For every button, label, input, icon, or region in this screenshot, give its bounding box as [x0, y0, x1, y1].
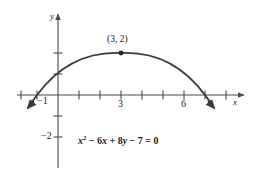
y-tick-label-neg2: −2 [41, 131, 52, 141]
vertex-point [119, 51, 124, 56]
x-axis [17, 91, 244, 100]
equation-tail: − 7 = 0 [127, 135, 158, 146]
x-axis-label: x [233, 98, 237, 107]
x-tick-label-3: 3 [118, 99, 123, 109]
equation-plus: + 8 [107, 135, 123, 146]
x-tick-label-6: 6 [181, 99, 186, 109]
y-axis-label: y [50, 12, 54, 21]
vertex-point-label: (3, 2) [107, 35, 128, 45]
parabola-figure: −1 3 6 −2 x y (3, 2) x2 − 6x + 8y − 7 = … [0, 0, 262, 174]
y-axis [54, 14, 63, 168]
equation-mid: − 6 [86, 135, 102, 146]
equation-label: x2 − 6x + 8y − 7 = 0 [78, 135, 159, 146]
x-tick-label-neg1: −1 [37, 96, 48, 106]
graph-canvas [0, 0, 262, 174]
